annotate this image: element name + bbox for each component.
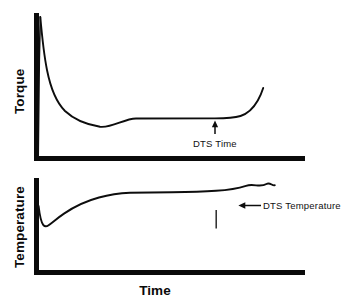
temperature-axis-title: Temperature <box>12 186 27 268</box>
torque-curve <box>40 17 263 127</box>
dts-time-label: DTS Time <box>193 138 237 149</box>
time-axis-title: Time <box>139 283 171 298</box>
torque-axis-title: Torque <box>12 68 27 114</box>
torque-panel: DTS Time Torque <box>12 13 305 161</box>
dts-temperature-arrow-icon <box>238 202 261 208</box>
dts-time-arrow-icon <box>212 121 218 135</box>
figure-canvas: DTS Time Torque DTS Temperature Temperat… <box>0 0 345 303</box>
temperature-panel: DTS Temperature Temperature Time <box>12 178 341 298</box>
dual-panel-cure-figure: DTS Time Torque DTS Temperature Temperat… <box>0 0 345 303</box>
temperature-curve <box>39 183 275 226</box>
dts-temperature-label: DTS Temperature <box>263 200 341 211</box>
